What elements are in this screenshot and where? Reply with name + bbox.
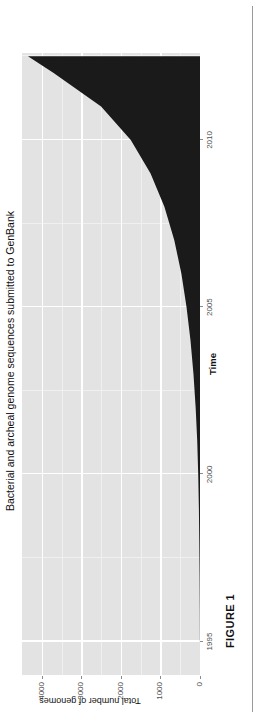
x-axis-tick-mark	[200, 473, 203, 474]
x-axis-title: Time	[207, 53, 218, 675]
y-axis-tick-mark	[200, 676, 201, 679]
y-axis-title: Total number of genomes	[20, 696, 160, 706]
area-series-path	[22, 53, 200, 675]
chart-title: Bacterial and archeal genome sequences s…	[0, 8, 20, 714]
rotated-chart-wrapper: Bacterial and archeal genome sequences s…	[0, 8, 222, 714]
y-axis-tick-mark	[121, 676, 122, 679]
y-axis-tick-mark	[160, 676, 161, 679]
y-axis-tick-mark	[42, 676, 43, 679]
column-divider-rule	[252, 6, 253, 712]
x-axis-tick-mark	[200, 306, 203, 307]
plot-panel	[22, 53, 200, 675]
x-axis-tick-mark	[200, 641, 203, 642]
y-axis-tick-label: 0	[195, 682, 205, 714]
figure-caption: FIGURE 1	[222, 578, 238, 648]
y-axis-tick-mark	[81, 676, 82, 679]
area-chart: Bacterial and archeal genome sequences s…	[0, 8, 222, 714]
x-axis-tick-mark	[200, 139, 203, 140]
figure-page: FIGURE 1 Bacterial and archeal genome se…	[0, 0, 263, 718]
